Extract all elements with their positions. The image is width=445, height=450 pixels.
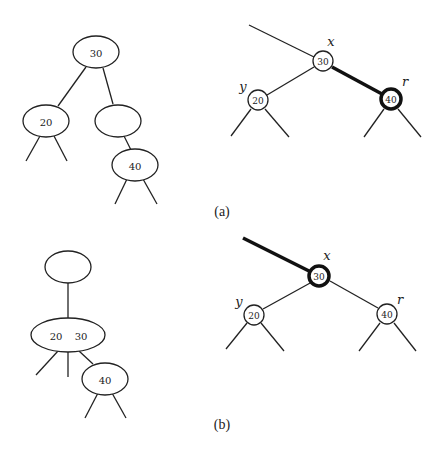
edge xyxy=(226,323,247,349)
edge xyxy=(79,351,93,364)
panel-a-left-tree: 30 20 40 xyxy=(23,36,158,204)
edge xyxy=(394,323,416,351)
edge xyxy=(54,136,67,161)
node-ellipse-empty xyxy=(45,251,91,283)
edge xyxy=(265,109,289,137)
var-label-x: x xyxy=(327,34,335,49)
node-key: 40 xyxy=(129,161,142,172)
var-label-r: r xyxy=(402,74,409,89)
edge xyxy=(115,179,127,204)
node-key: 40 xyxy=(385,95,397,105)
node-key: 40 xyxy=(99,375,112,386)
var-label-y: y xyxy=(238,79,247,94)
edge xyxy=(263,282,312,309)
node-key: 30 xyxy=(75,331,88,342)
var-label-r: r xyxy=(397,292,404,307)
edge xyxy=(112,393,126,418)
caption-a: (a) xyxy=(214,204,230,220)
node-key: 20 xyxy=(252,96,264,106)
edge xyxy=(267,67,314,95)
node-key: 30 xyxy=(317,57,329,67)
node-ellipse-empty xyxy=(95,105,141,137)
node-ellipse-merged xyxy=(31,318,105,352)
thick-edge xyxy=(332,67,382,94)
edge xyxy=(26,136,40,161)
edge xyxy=(330,281,378,308)
edge xyxy=(58,67,86,106)
edge xyxy=(143,179,157,204)
panel-b-left-tree: 20 30 40 xyxy=(31,251,128,418)
var-label-y: y xyxy=(234,294,243,309)
edge xyxy=(124,136,131,150)
edge xyxy=(398,109,421,137)
panel-a-right-tree: 30 x 20 y 40 r xyxy=(231,25,421,137)
node-key: 40 xyxy=(381,310,393,320)
edge xyxy=(231,109,251,136)
edge xyxy=(85,393,98,418)
caption-b: (b) xyxy=(214,417,231,433)
node-key: 20 xyxy=(248,311,260,321)
node-key: 20 xyxy=(40,117,53,128)
panel-b-right-tree: 30 x 20 y 40 r xyxy=(226,238,416,351)
var-label-x: x xyxy=(323,248,331,263)
thick-edge xyxy=(243,238,309,271)
edge xyxy=(36,351,58,375)
node-key: 30 xyxy=(90,48,103,59)
edge xyxy=(364,109,384,137)
edge xyxy=(261,323,284,351)
node-key: 20 xyxy=(50,331,63,342)
figure-canvas: 30 20 40 30 x 20 y 40 r (a) xyxy=(0,0,445,450)
node-key: 30 xyxy=(313,272,325,282)
edge xyxy=(249,25,314,57)
edge xyxy=(103,68,113,104)
edge xyxy=(359,323,380,351)
